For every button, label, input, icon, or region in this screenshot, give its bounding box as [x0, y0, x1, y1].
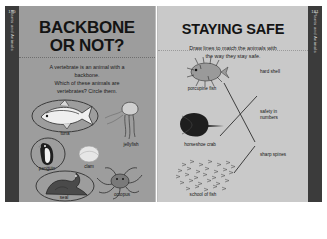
left-instruction-line-4: vertebrates? Circle them.: [30, 87, 144, 95]
clam-icon: [79, 146, 99, 162]
workbook-spread: BACKBONE OR NOT? A vertebrate is an anim…: [0, 0, 327, 239]
defense-label-safety-in-numbers: safety in numbers: [260, 109, 294, 120]
penguin-icon: [38, 143, 53, 167]
seal-icon: [46, 173, 87, 195]
left-instruction-line-3: Which of these animals are: [30, 79, 144, 87]
match-line-horseshoe-crab[interactable]: [220, 96, 257, 136]
left-instructions: A vertebrate is an animal with a backbon…: [19, 63, 155, 95]
animal-label-seal: seal: [60, 195, 68, 200]
left-title-line-1: BACKBONE: [23, 19, 151, 37]
match-line-school-of-fish[interactable]: [234, 146, 255, 173]
animal-label-octopus: octopus: [114, 192, 130, 197]
animal-label-school-of-fish: school of fish: [190, 192, 217, 197]
animal-label-porcupine-fish: porcupine fish: [188, 86, 217, 91]
right-page-title: STAYING SAFE: [162, 22, 304, 38]
left-page-title: BACKBONE OR NOT?: [23, 19, 151, 56]
animal-label-horseshoe-crab: horseshoe crab: [184, 142, 216, 147]
right-divider-rule: [158, 50, 308, 51]
right-page-tab: 181 Plants and Animals: [308, 6, 322, 202]
right-tab-label: Plants and Animals: [313, 0, 318, 73]
porcupine-fish-icon: [187, 57, 229, 87]
left-title-line-2: OR NOT?: [23, 37, 151, 55]
school-of-fish-icon: [176, 160, 235, 191]
left-divider-rule: [19, 57, 155, 58]
left-instruction-line-1: A vertebrate is an animal with a: [30, 63, 144, 71]
fish-icon: [41, 100, 93, 129]
horseshoe-crab-icon: [180, 113, 224, 137]
animal-label-tuna: tuna: [61, 131, 70, 136]
defense-label-hard-shell: hard shell: [260, 69, 294, 75]
jellyfish-icon: [105, 102, 138, 139]
left-page: BACKBONE OR NOT? A vertebrate is an anim…: [19, 6, 155, 202]
animal-label-jellyfish: jellyfish: [123, 142, 138, 147]
left-tab-label: Plants and Animals: [10, 0, 15, 71]
match-line-porcupine-fish[interactable]: [224, 83, 255, 142]
gutter-line-left: [155, 6, 156, 202]
left-page-tab: 180 Plants and Animals: [5, 6, 19, 202]
right-instruction-line-2: the way they stay safe.: [174, 52, 292, 60]
defense-label-sharp-spines: sharp spines: [260, 152, 294, 158]
right-instructions: Draw lines to match the animals with the…: [158, 44, 308, 60]
left-instruction-line-2: backbone.: [30, 71, 144, 79]
animal-label-penguin: penguin: [39, 166, 55, 171]
animal-label-clam: clam: [84, 164, 94, 169]
right-page: STAYING SAFE Draw lines to match the ani…: [158, 6, 308, 202]
circle-mark-tuna[interactable]: [32, 100, 98, 132]
